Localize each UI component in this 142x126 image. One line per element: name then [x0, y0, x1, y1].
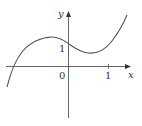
origin-label: 0	[59, 71, 65, 81]
y-tick-label-1: 1	[59, 44, 65, 54]
function-graph	[0, 0, 142, 126]
x-axis-label: x	[128, 70, 134, 80]
x-tick-label-1: 1	[105, 71, 111, 81]
y-axis-label: y	[58, 9, 64, 19]
y-axis-arrow-icon	[66, 11, 71, 17]
